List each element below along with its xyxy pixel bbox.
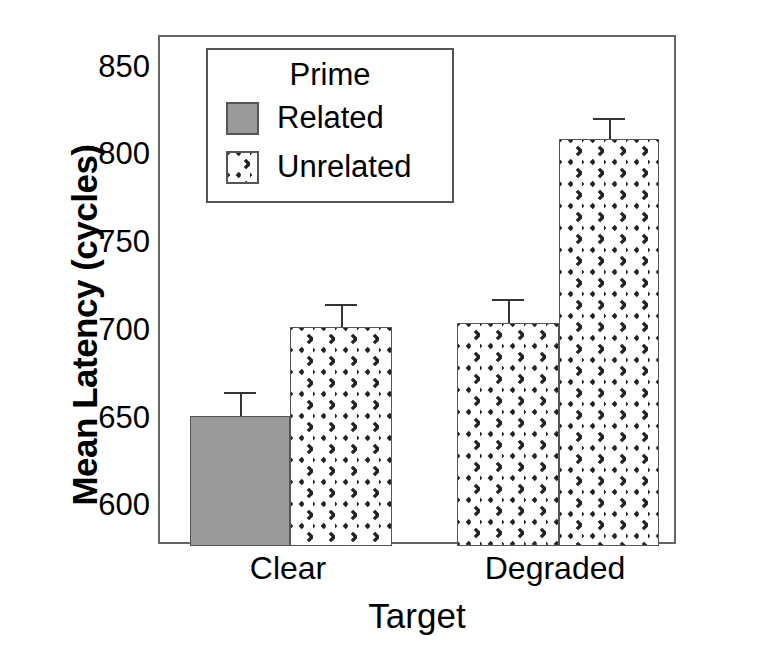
bar-clear-related-0[interactable] bbox=[190, 416, 290, 546]
bar-degraded-unrelated-2[interactable] bbox=[457, 323, 559, 546]
y-tick-label-600: 600 bbox=[38, 489, 150, 520]
x-tick-label-degraded: Degraded bbox=[445, 550, 665, 586]
error-bar-cap-3 bbox=[593, 118, 625, 120]
error-bar-stem-0 bbox=[240, 392, 242, 417]
plot-area: Prime Related Unrelated bbox=[158, 35, 676, 544]
legend-swatch-unrelated-hatch bbox=[226, 151, 259, 184]
error-bar-cap-2 bbox=[492, 299, 524, 301]
error-bar-cap-1 bbox=[325, 304, 357, 306]
hatch-pattern-icon bbox=[560, 140, 658, 545]
x-axis-title: Target bbox=[158, 596, 676, 636]
error-bar-stem-3 bbox=[609, 118, 611, 139]
error-bar-stem-1 bbox=[341, 304, 343, 327]
error-bar-cap-0 bbox=[224, 392, 256, 394]
x-tick-label-clear: Clear bbox=[178, 550, 398, 586]
legend-swatch-related-solid bbox=[226, 102, 259, 135]
legend-title: Prime bbox=[208, 58, 452, 92]
legend-item-unrelated[interactable]: Unrelated bbox=[226, 150, 411, 184]
hatch-pattern-icon bbox=[291, 328, 391, 545]
y-tick-label-700: 700 bbox=[38, 314, 150, 345]
bar-chart-figure: Mean Latency (cycles) Target 60065070075… bbox=[0, 0, 768, 670]
error-bar-stem-2 bbox=[508, 299, 510, 324]
legend-item-related[interactable]: Related bbox=[226, 101, 384, 135]
hatch-pattern-icon bbox=[228, 153, 257, 182]
y-tick-label-650: 650 bbox=[38, 402, 150, 433]
legend-box: Prime Related Unrelated bbox=[206, 48, 454, 203]
bar-degraded-unrelated-3[interactable] bbox=[559, 139, 659, 546]
legend-label-unrelated: Unrelated bbox=[277, 150, 411, 184]
y-tick-label-750: 750 bbox=[38, 226, 150, 257]
y-tick-label-800: 800 bbox=[38, 138, 150, 169]
legend-label-related: Related bbox=[277, 101, 384, 135]
y-tick-label-850: 850 bbox=[38, 51, 150, 82]
hatch-pattern-icon bbox=[458, 324, 558, 545]
bar-clear-unrelated-1[interactable] bbox=[290, 327, 392, 546]
